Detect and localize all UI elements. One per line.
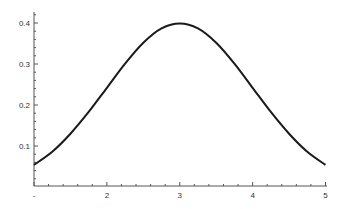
y-tick-label: 0.4 — [19, 19, 31, 28]
y-ticks: 0.10.20.30.4 — [19, 15, 38, 179]
y-tick-label: 0.3 — [19, 60, 31, 69]
x-tick-label: 3 — [178, 191, 183, 200]
x-tick-label: 4 — [250, 191, 255, 200]
x-tick-label: - — [33, 191, 36, 200]
y-axis: 0.10.20.30.4 — [19, 12, 38, 186]
x-ticks: -2345 — [33, 182, 329, 200]
x-tick-label: 5 — [323, 191, 328, 200]
line-chart: 0.10.20.30.4 -2345 — [0, 0, 348, 209]
pdf-curve — [34, 23, 326, 164]
x-tick-label: 2 — [105, 191, 110, 200]
y-tick-label: 0.2 — [19, 101, 31, 110]
y-tick-label: 0.1 — [19, 142, 31, 151]
x-axis: -2345 — [33, 182, 329, 200]
